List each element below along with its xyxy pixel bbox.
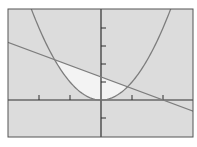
graph-canvas bbox=[0, 0, 197, 147]
